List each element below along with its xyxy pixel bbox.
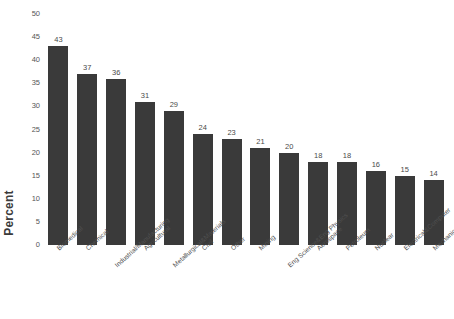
bar-value-label: 15: [392, 166, 418, 174]
y-axis-tick-label: 0: [18, 241, 40, 249]
bar-group: 16: [363, 14, 389, 245]
y-axis-tick-label: 15: [18, 172, 40, 180]
bar: [366, 171, 386, 245]
bar-value-label: 18: [334, 152, 360, 160]
bar: [106, 79, 126, 245]
x-axis-tick-label: Agricultural: [143, 247, 147, 252]
x-axis-tick-label: Nuclear: [374, 247, 378, 252]
bar-value-label: 37: [74, 64, 100, 72]
bar: [250, 148, 270, 245]
y-axis-tick-label: 25: [18, 126, 40, 134]
bar: [222, 139, 242, 245]
y-axis-tick-label: 10: [18, 195, 40, 203]
y-axis-tick-label: 50: [18, 10, 40, 18]
x-axis-tick-label: Civil: [201, 247, 205, 252]
y-axis-tick-label: 30: [18, 103, 40, 111]
bar-group: 21: [247, 14, 273, 245]
y-axis-tick-labels: 05101520253035404550: [18, 0, 40, 319]
bar-value-label: 20: [276, 143, 302, 151]
bar-value-label: 16: [363, 161, 389, 169]
bar-value-label: 23: [219, 129, 245, 137]
bar-group: 18: [334, 14, 360, 245]
bar-value-label: 24: [190, 124, 216, 132]
x-axis-tick-label: Biomedical: [56, 247, 60, 252]
x-axis-tick-label: Electrical&Computer: [403, 247, 407, 252]
x-axis-tick-label: Mining: [258, 247, 262, 252]
x-axis-tick-label: Metallurgical&Materials: [172, 264, 176, 269]
x-axis-tick-labels: BiomedicalChemicalIndustrial/Manufacturi…: [44, 245, 448, 319]
bar-group: 29: [161, 14, 187, 245]
y-axis-tick-label: 35: [18, 80, 40, 88]
bar-group: 18: [305, 14, 331, 245]
bar-group: 23: [219, 14, 245, 245]
bar-value-label: 21: [247, 138, 273, 146]
x-axis-tick-label: Other: [230, 247, 234, 252]
y-axis-tick-label: 40: [18, 56, 40, 64]
bar: [77, 74, 97, 245]
bar-value-label: 31: [132, 92, 158, 100]
x-axis-tick-label: Aerospace: [316, 247, 320, 252]
x-axis-tick-label: Eng Science&Eng Physics: [287, 264, 291, 269]
bar-group: 36: [103, 14, 129, 245]
bar-value-label: 43: [45, 36, 71, 44]
bar: [48, 46, 68, 245]
bar-group: 24: [190, 14, 216, 245]
bar: [279, 153, 299, 245]
bar-value-label: 29: [161, 101, 187, 109]
bar-value-label: 18: [305, 152, 331, 160]
bar-value-label: 14: [421, 170, 447, 178]
bar: [135, 102, 155, 245]
bar-group: 31: [132, 14, 158, 245]
x-axis-tick-label: Chemical: [85, 247, 89, 252]
bar-group: 37: [74, 14, 100, 245]
bar-group: 15: [392, 14, 418, 245]
bar-chart: Percent 05101520253035404550 43373631292…: [0, 0, 454, 319]
plot-area: 4337363129242321201818161514: [44, 14, 448, 245]
bar-group: 20: [276, 14, 302, 245]
bar: [395, 176, 415, 245]
x-axis-tick-label: Industrial/Manufacturing: [114, 264, 118, 269]
y-axis-tick-label: 5: [18, 218, 40, 226]
y-axis-tick-label: 45: [18, 33, 40, 41]
bar-group: 43: [45, 14, 71, 245]
y-axis-tick-label: 20: [18, 149, 40, 157]
x-axis-tick-label: Petroleum: [345, 247, 349, 252]
y-axis-title: Percent: [2, 178, 16, 248]
bar-value-label: 36: [103, 69, 129, 77]
x-axis-tick-label: Mechanical: [432, 247, 436, 252]
